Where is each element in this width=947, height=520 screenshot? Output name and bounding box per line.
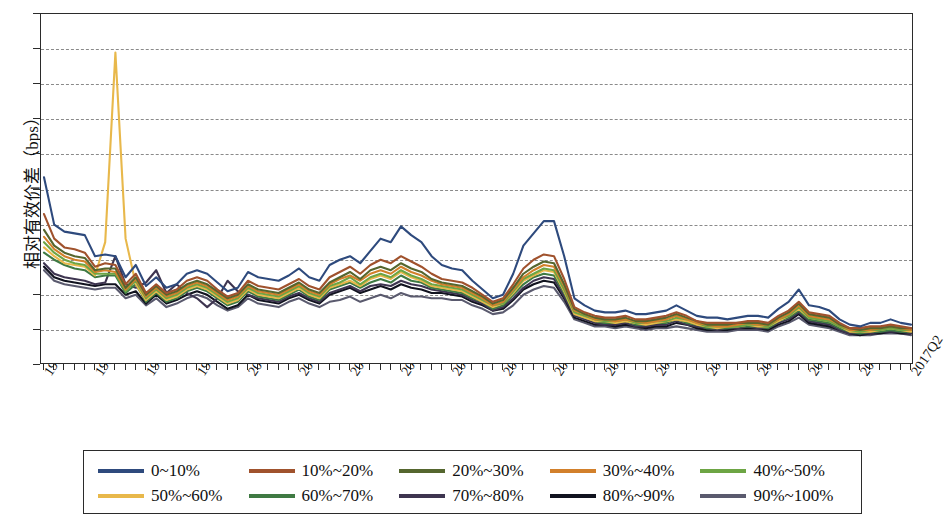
legend-label: 10%~20% [302,462,374,479]
x-axis-tick-mark [635,364,636,370]
y-axis-tick-mark [33,118,40,119]
x-axis-tick-mark [390,364,391,370]
y-axis-tick-mark [33,153,40,154]
y-axis-tick-mark [33,294,40,295]
x-axis-tick-mark [788,364,789,370]
legend-color-swatch [700,494,746,498]
legend-item[interactable]: 0~10% [98,462,249,479]
x-axis-tick-mark [482,364,483,370]
x-axis-tick-mark [533,364,534,370]
x-axis-tick-mark [747,364,748,370]
x-axis-tick-mark [74,364,75,370]
x-axis-tick-mark [890,364,891,370]
x-axis-tick-mark [135,364,136,370]
y-axis-tick-mark [33,48,40,49]
y-axis-tick-mark [33,259,40,260]
legend-label: 50%~60% [151,487,223,504]
chart-area: 相对有效价差（bps） 200180160140120100806040200 … [0,0,943,446]
x-axis-tick-mark [380,364,381,370]
legend-color-swatch [249,469,295,473]
x-axis-tick-mark [900,364,901,370]
x-axis-tick-mark [278,364,279,370]
y-axis-tick-mark [33,364,40,365]
legend-label: 90%~100% [753,487,833,504]
legend-color-swatch [550,494,596,498]
legend-label: 70%~80% [452,487,524,504]
legend-item[interactable]: 20%~30% [399,462,550,479]
series-lines [41,14,913,364]
x-axis-tick-mark [125,364,126,370]
legend-item[interactable]: 60%~70% [249,487,400,504]
legend-label: 60%~70% [302,487,374,504]
legend-item[interactable]: 40%~50% [700,462,851,479]
chart-legend: 0~10%10%~20%20%~30%30%~40%40%~50%50%~60%… [83,450,862,514]
x-axis-tick-mark [227,364,228,370]
x-axis-tick-mark [339,364,340,370]
x-axis-tick-mark [288,364,289,370]
legend-color-swatch [98,494,144,498]
y-axis-tick-mark [33,189,40,190]
x-axis-tick-mark [584,364,585,370]
legend-color-swatch [700,469,746,473]
x-axis-tick-mark [696,364,697,370]
legend-item[interactable]: 90%~100% [700,487,851,504]
x-axis-tick-mark [176,364,177,370]
x-axis-tick-mark [543,364,544,370]
legend-label: 20%~30% [452,462,524,479]
legend-item[interactable]: 10%~20% [249,462,400,479]
y-axis-tick-mark [33,329,40,330]
x-axis-tick-mark [329,364,330,370]
x-axis-tick-label: 2017Q2 [908,333,946,379]
y-axis-tick-mark [33,224,40,225]
x-axis-tick-mark [839,364,840,370]
x-axis-tick-mark [237,364,238,370]
legend-color-swatch [399,494,445,498]
x-axis-tick-mark [849,364,850,370]
x-axis-tick-mark [798,364,799,370]
y-axis-tick-mark [33,83,40,84]
x-axis-tick-mark [645,364,646,370]
x-axis-tick-mark [186,364,187,370]
legend-label: 0~10% [151,462,200,479]
x-axis-tick-mark [431,364,432,370]
legend-item[interactable]: 30%~40% [550,462,701,479]
legend-item[interactable]: 70%~80% [399,487,550,504]
legend-color-swatch [249,494,295,498]
y-axis-tick-mark [33,13,40,14]
legend-item[interactable]: 80%~90% [550,487,701,504]
x-axis-tick-mark [84,364,85,370]
plot-area [40,13,913,364]
x-axis-tick-mark [594,364,595,370]
legend-label: 30%~40% [603,462,675,479]
legend-color-swatch [399,469,445,473]
series-line [44,214,911,328]
legend-color-swatch [98,469,144,473]
x-axis-tick-mark [737,364,738,370]
legend-label: 40%~50% [753,462,825,479]
legend-row: 50%~60%60%~70%70%~80%80%~90%90%~100% [98,483,851,508]
legend-row: 0~10%10%~20%20%~30%30%~40%40%~50% [98,458,851,483]
legend-color-swatch [550,469,596,473]
x-axis-tick-mark [441,364,442,370]
x-axis-tick-mark [686,364,687,370]
legend-item[interactable]: 50%~60% [98,487,249,504]
x-axis-tick-mark [492,364,493,370]
legend-label: 80%~90% [603,487,675,504]
